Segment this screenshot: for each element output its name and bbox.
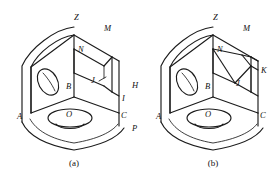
label-b-A: A — [155, 111, 162, 121]
label-a-M: M — [103, 23, 112, 33]
figure-sheet: Z M N B J H I A O C P (a) — [0, 0, 279, 176]
figure-a: Z M N B J H I A O C P (a) — [0, 0, 150, 176]
label-a-O: O — [66, 109, 72, 119]
label-b-C: C — [260, 110, 266, 120]
label-a-H: H — [131, 80, 139, 90]
figure-a-caption: (a) — [69, 158, 79, 168]
label-b-M: M — [242, 23, 251, 33]
label-a-A: A — [16, 111, 23, 121]
figure-b: Z M N B J K A O C (b) — [139, 0, 279, 176]
label-b-O: O — [205, 109, 211, 119]
label-a-B: B — [66, 81, 71, 91]
label-a-Z: Z — [74, 12, 79, 22]
label-b-B: B — [205, 81, 210, 91]
label-a-P: P — [131, 123, 137, 133]
label-b-Z: Z — [213, 12, 218, 22]
label-a-C: C — [121, 110, 127, 120]
figure-b-caption: (b) — [208, 158, 219, 168]
